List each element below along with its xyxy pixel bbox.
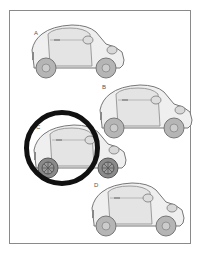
car-d-icon xyxy=(88,180,188,238)
car-a-icon xyxy=(28,22,128,80)
car-option-d[interactable]: D xyxy=(88,180,188,242)
option-label-a: A xyxy=(34,30,38,36)
option-label-b: B xyxy=(102,84,106,90)
option-label-d: D xyxy=(94,182,98,188)
selection-circle xyxy=(24,110,100,186)
car-option-a[interactable]: A xyxy=(28,22,128,84)
